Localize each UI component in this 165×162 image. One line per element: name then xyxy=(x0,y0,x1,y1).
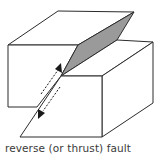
fault-block-diagram xyxy=(0,0,165,140)
diagram-caption: reverse (or thrust) fault xyxy=(5,142,131,154)
